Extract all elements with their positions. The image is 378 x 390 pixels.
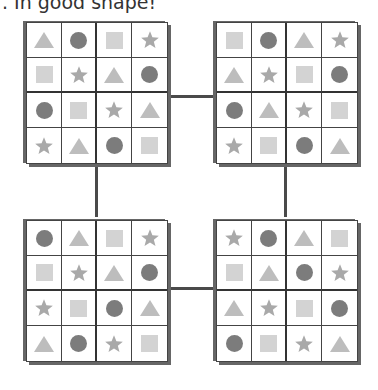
triangle-icon [69,138,89,154]
grid-cell [322,326,357,361]
grid-cell [252,256,287,291]
grid-cell [27,93,62,128]
grid-cell [97,221,132,256]
square-icon [260,137,277,154]
grid-cell [27,221,62,256]
grid-cell [62,256,97,291]
square-icon [141,137,158,154]
grid-cell [252,326,287,361]
square-icon [70,102,87,119]
grid-cell [217,221,252,256]
grid-cell [132,93,167,128]
grid-cell [132,291,167,326]
grid-cell [27,256,62,291]
grid-bottom-right [216,220,358,362]
star-icon [104,100,124,120]
grid-cell [287,291,322,326]
circle-icon [141,66,158,83]
square-icon [296,66,313,83]
circle-icon [331,66,348,83]
connector-bottom [167,287,214,290]
grid-cell [287,221,322,256]
grid-cell [62,93,97,128]
grid-cell [287,256,322,291]
grid-cell [132,58,167,93]
grid-cell [322,23,357,58]
circle-icon [260,230,277,247]
triangle-icon [330,138,350,154]
star-icon [259,298,279,318]
grid-cell [27,58,62,93]
star-icon [69,263,89,283]
triangle-icon [224,67,244,83]
circle-icon [106,300,123,317]
square-icon [260,335,277,352]
star-icon [104,334,124,354]
grid-cell [322,256,357,291]
triangle-icon [104,265,124,281]
square-icon [331,230,348,247]
star-icon [34,298,54,318]
puzzle-title: . In good shape! [2,0,156,13]
triangle-icon [330,336,350,352]
circle-icon [260,32,277,49]
circle-icon [296,264,313,281]
grid-cell [62,128,97,163]
grid-cell [132,128,167,163]
grid-cell [217,58,252,93]
grid-cell [97,128,132,163]
triangle-icon [34,32,54,48]
square-icon [141,335,158,352]
grid-cell [217,93,252,128]
grid-cell [62,58,97,93]
grid-cell [62,291,97,326]
circle-icon [70,32,87,49]
grid-cell [132,221,167,256]
star-icon [69,65,89,85]
grid-cell [97,326,132,361]
grid-top-left [26,22,168,164]
grid-cell [322,93,357,128]
grid-cell [97,291,132,326]
grid-cell [97,58,132,93]
grid-cell [132,256,167,291]
circle-icon [226,335,243,352]
grid-cell [62,221,97,256]
grid-cell [217,291,252,326]
star-icon [330,263,350,283]
grid-cell [322,291,357,326]
star-icon [294,334,314,354]
star-icon [34,136,54,156]
grid-cell [97,256,132,291]
triangle-icon [140,102,160,118]
circle-icon [226,102,243,119]
triangle-icon [69,230,89,246]
grid-cell [252,23,287,58]
grid-cell [27,128,62,163]
triangle-icon [259,265,279,281]
grid-cell [217,128,252,163]
triangle-icon [224,300,244,316]
grid-cell [322,221,357,256]
circle-icon [141,264,158,281]
grid-cell [287,58,322,93]
grid-cell [97,93,132,128]
grid-cell [287,93,322,128]
star-icon [140,228,160,248]
square-icon [106,230,123,247]
grid-bottom-left [26,220,168,362]
grid-cell [252,291,287,326]
circle-icon [36,230,53,247]
grid-cell [322,128,357,163]
circle-icon [296,137,313,154]
grid-cell [217,23,252,58]
connector-top [167,95,214,98]
square-icon [331,102,348,119]
grid-cell [27,326,62,361]
grid-cell [252,128,287,163]
grid-cell [322,58,357,93]
square-icon [226,264,243,281]
grid-cell [132,326,167,361]
grid-cell [62,23,97,58]
connector-left [95,165,98,217]
